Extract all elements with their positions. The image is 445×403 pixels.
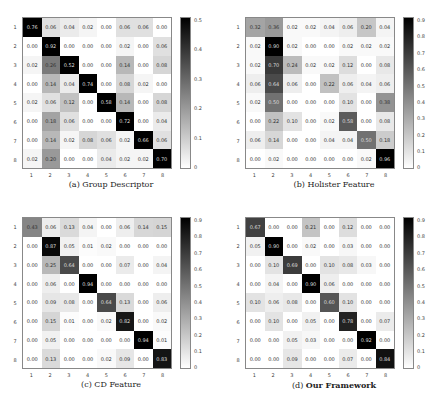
- x-tick-label: 2: [264, 371, 283, 379]
- colorbar-tick-label: 0.2: [417, 332, 425, 338]
- x-tick-label: 7: [358, 371, 377, 379]
- matrix-cell: 0.00: [97, 256, 116, 275]
- matrix-cell: 0.02: [357, 149, 376, 168]
- matrix-cell: 0.02: [246, 37, 265, 56]
- matrix-cell: 0.00: [153, 74, 172, 93]
- matrix-cell: 0.69: [283, 256, 302, 275]
- y-axis-ticks: 12345678: [10, 17, 20, 169]
- matrix-cell: 0.00: [116, 331, 135, 350]
- matrix-cell: 0.14: [116, 93, 135, 112]
- matrix-cell: 0.07: [339, 349, 358, 368]
- matrix-cell: 0.00: [283, 218, 302, 237]
- colorbar-tick-label: 0.8: [417, 33, 425, 39]
- matrix-cell: 0.00: [134, 349, 153, 368]
- matrix-cell: 0.92: [357, 331, 376, 350]
- colorbar-tick-label: 0.9: [417, 17, 425, 23]
- colorbar: [403, 217, 414, 369]
- colorbar-tick-label: 0.2: [194, 105, 202, 111]
- matrix-cell: 0.74: [79, 74, 98, 93]
- x-tick-label: 5: [320, 371, 339, 379]
- caption: (b) Holister Feature: [223, 180, 445, 189]
- matrix-cell: 0.02: [246, 56, 265, 75]
- colorbar-tick-label: 0.2: [194, 332, 202, 338]
- matrix-cell: 0.00: [116, 274, 135, 293]
- x-tick-label: 3: [60, 371, 79, 379]
- colorbar: [403, 17, 414, 169]
- caption-prefix: (a): [69, 180, 80, 189]
- matrix-cell: 0.87: [42, 237, 61, 256]
- matrix-cell: 0.06: [283, 74, 302, 93]
- matrix-cell: 0.02: [97, 237, 116, 256]
- matrix-cell: 0.06: [339, 74, 358, 93]
- colorbar-tick-label: 0.1: [417, 148, 425, 154]
- colorbar-tick-label: 0.4: [417, 299, 425, 305]
- matrix-cell: 0.00: [79, 293, 98, 312]
- colorbar-tick-label: 0.1: [417, 348, 425, 354]
- matrix-cell: 0.58: [97, 93, 116, 112]
- matrix-cell: 0.14: [134, 218, 153, 237]
- matrix-cell: 0.00: [302, 112, 321, 131]
- caption: (a) Group Descriptor: [0, 180, 222, 189]
- colorbar-tick-label: 0.5: [417, 83, 425, 89]
- confusion-matrix: 0.760.060.040.020.000.060.060.000.000.92…: [22, 17, 172, 169]
- matrix-cell: 0.00: [320, 149, 339, 168]
- matrix-cell: 0.03: [302, 331, 321, 350]
- matrix-cell: 0.12: [339, 56, 358, 75]
- colorbar-tick-label: 0.1: [194, 135, 202, 141]
- y-tick-label: 3: [10, 255, 20, 274]
- colorbar-tick-label: 0.6: [194, 266, 202, 272]
- matrix-cell: 0.00: [134, 293, 153, 312]
- x-tick-label: 5: [97, 371, 116, 379]
- matrix-cell: 0.00: [246, 274, 265, 293]
- x-axis-ticks: 12345678: [245, 371, 395, 379]
- matrix-cell: 0.09: [42, 293, 61, 312]
- matrix-cell: 0.94: [79, 274, 98, 293]
- matrix-cell: 0.00: [79, 349, 98, 368]
- matrix-cell: 0.02: [283, 37, 302, 56]
- matrix-cell: 0.00: [60, 149, 79, 168]
- matrix-cell: 0.00: [134, 37, 153, 56]
- matrix-cell: 0.84: [376, 349, 395, 368]
- y-tick-label: 8: [10, 150, 20, 169]
- colorbar-tick-label: 0.3: [194, 315, 202, 321]
- matrix-cell: 0.70: [265, 56, 284, 75]
- y-tick-label: 2: [233, 236, 243, 255]
- matrix-cell: 0.00: [153, 237, 172, 256]
- matrix-cell: 0.26: [42, 56, 61, 75]
- x-tick-label: 6: [116, 371, 135, 379]
- x-tick-label: 2: [41, 371, 60, 379]
- matrix-cell: 0.06: [42, 274, 61, 293]
- matrix-cell: 0.02: [339, 37, 358, 56]
- matrix-cell: 0.00: [302, 293, 321, 312]
- matrix-cell: 0.00: [357, 349, 376, 368]
- matrix-cell: 0.00: [79, 331, 98, 350]
- matrix-cell: 0.04: [97, 149, 116, 168]
- caption-name: Holister Feature: [308, 180, 375, 189]
- colorbar-tick-label: 0.2: [417, 132, 425, 138]
- matrix-cell: 0.00: [79, 256, 98, 275]
- matrix-cell: 0.02: [60, 131, 79, 150]
- matrix-cell: 0.02: [357, 37, 376, 56]
- matrix-cell: 0.02: [97, 312, 116, 331]
- matrix-cell: 0.22: [265, 112, 284, 131]
- matrix-cell: 0.10: [246, 293, 265, 312]
- matrix-cell: 0.00: [376, 293, 395, 312]
- x-axis-ticks: 12345678: [245, 171, 395, 179]
- matrix-cell: 0.06: [153, 37, 172, 56]
- panel-holister-feature: 12345678 0.320.360.020.020.040.060.200.0…: [223, 0, 445, 200]
- matrix-cell: 0.03: [357, 256, 376, 275]
- caption-prefix: (c): [81, 380, 92, 389]
- matrix-cell: 0.00: [376, 218, 395, 237]
- x-tick-label: 7: [358, 171, 377, 179]
- matrix-cell: 0.00: [376, 331, 395, 350]
- matrix-cell: 0.00: [97, 37, 116, 56]
- matrix-cell: 0.00: [246, 312, 265, 331]
- matrix-cell: 0.08: [153, 56, 172, 75]
- matrix-cell: 0.15: [153, 218, 172, 237]
- matrix-cell: 0.90: [265, 237, 284, 256]
- colorbar-tick-label: 0.5: [417, 283, 425, 289]
- x-tick-label: 4: [301, 171, 320, 179]
- colorbar-tick-label: 0.9: [417, 217, 425, 223]
- matrix-cell: 0.00: [116, 237, 135, 256]
- matrix-cell: 0.76: [23, 18, 42, 37]
